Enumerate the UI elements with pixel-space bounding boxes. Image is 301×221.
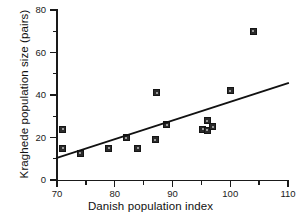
y-tick-40: [50, 94, 57, 95]
x-tick-110: [287, 180, 288, 187]
data-point: [77, 150, 84, 157]
y-tick-80: [50, 9, 57, 10]
x-minor-tick-95: [201, 180, 202, 185]
data-point: [209, 123, 216, 130]
data-point: [59, 145, 66, 152]
data-point: [227, 87, 234, 94]
x-minor-tick-85: [143, 180, 144, 185]
x-axis-title: Danish population index: [0, 200, 301, 212]
y-minor-tick-10: [53, 158, 58, 159]
x-tick-70: [56, 180, 57, 187]
data-point: [59, 126, 66, 133]
x-tick-90: [172, 180, 173, 187]
x-tick-label-80: 80: [100, 189, 130, 199]
y-axis-title: Kraghede population size (pairs): [18, 1, 30, 187]
scatter-plot-figure: 020406080 708090100110 Danish population…: [0, 0, 301, 221]
data-point: [123, 134, 130, 141]
x-minor-tick-105: [258, 180, 259, 185]
y-tick-60: [50, 52, 57, 53]
data-point: [163, 121, 170, 128]
data-point: [105, 145, 112, 152]
y-minor-tick-30: [53, 116, 58, 117]
x-tick-label-70: 70: [42, 189, 72, 199]
x-tick-80: [114, 180, 115, 187]
x-tick-label-100: 100: [215, 189, 245, 199]
x-tick-100: [230, 180, 231, 187]
x-tick-label-110: 110: [273, 189, 301, 199]
x-minor-tick-75: [85, 180, 86, 185]
x-tick-label-90: 90: [158, 189, 188, 199]
data-point: [152, 136, 159, 143]
data-point: [134, 145, 141, 152]
data-point: [250, 28, 257, 35]
y-tick-20: [50, 137, 57, 138]
y-minor-tick-50: [53, 73, 58, 74]
y-minor-tick-70: [53, 31, 58, 32]
data-point: [153, 89, 160, 96]
